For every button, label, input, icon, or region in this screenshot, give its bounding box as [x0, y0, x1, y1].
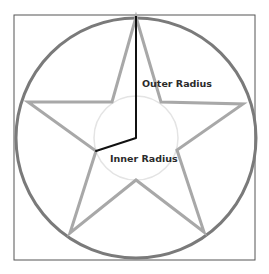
star-radius-diagram: Outer Radius Inner Radius	[0, 0, 269, 274]
outer-radius-label: Outer Radius	[142, 78, 212, 89]
inner-radius-label: Inner Radius	[110, 153, 178, 164]
